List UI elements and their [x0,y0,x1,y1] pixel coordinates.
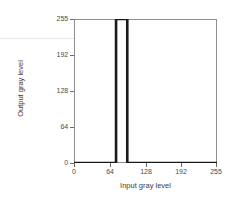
data-curve [74,19,217,163]
y-tick-192 [70,55,74,56]
scanline-artifact [0,38,74,39]
x-tick-label-64: 64 [98,168,122,176]
x-tick-255 [216,163,217,167]
x-tick-192 [181,163,182,167]
y-tick-label-0: 0 [44,159,68,166]
x-tick-128 [146,163,147,167]
x-tick-label-255: 255 [204,168,228,176]
x-tick-label-192: 192 [169,168,193,176]
chart-figure: 255 192 128 64 0 0 64 128 192 255 Input … [0,0,234,201]
y-tick-label-64: 64 [44,123,68,130]
y-tick-label-255: 255 [44,15,68,22]
y-tick-128 [70,91,74,92]
x-tick-0 [74,163,75,167]
y-tick-255 [70,19,74,20]
x-tick-label-0: 0 [62,168,86,176]
y-tick-64 [70,127,74,128]
y-axis-title: Output gray level [16,29,25,149]
x-tick-label-128: 128 [134,168,158,176]
y-tick-label-192: 192 [44,51,68,58]
x-axis-title: Input gray level [74,181,217,190]
x-tick-64 [110,163,111,167]
y-tick-label-128: 128 [44,87,68,94]
